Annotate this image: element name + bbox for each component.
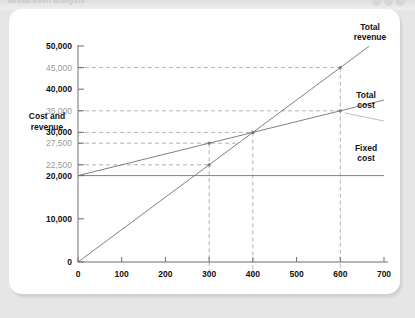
x-tick-label: 300 (202, 269, 216, 279)
x-tick-label: 0 (76, 269, 81, 279)
series-label-total-cost: Total (356, 90, 376, 100)
data-point-marker (251, 131, 254, 134)
chart-card: 0100200300400500600700010,00020,00030,00… (9, 9, 400, 294)
x-tick-label: 700 (377, 269, 391, 279)
series-label-total-cost: cost (357, 100, 375, 110)
series-line-total-revenue (78, 46, 369, 262)
data-point-marker (208, 142, 211, 145)
x-tick-label: 100 (115, 269, 129, 279)
y-tick-label-annotation: 22,500 (46, 160, 72, 170)
data-point-marker (208, 163, 211, 166)
y-axis-title: Cost and (29, 111, 65, 121)
series-label-fixed-cost: cost (357, 153, 375, 163)
window-dot-icon[interactable] (372, 0, 381, 6)
x-tick-label: 600 (333, 269, 347, 279)
leader-line-total-cost (345, 113, 384, 121)
series-label-fixed-cost: Fixed (355, 143, 377, 153)
series-line-total-cost (78, 100, 384, 176)
breakeven-chart: 0100200300400500600700010,00020,00030,00… (9, 9, 400, 294)
window-dot-icon[interactable] (396, 0, 405, 6)
data-point-marker (339, 109, 342, 112)
series-label-total-revenue: Total (360, 22, 380, 32)
y-tick-label-annotation: 45,000 (46, 63, 72, 73)
y-tick-label-major: 40,000 (46, 84, 72, 94)
y-tick-label-major: 10,000 (46, 214, 72, 224)
series-label-total-revenue: revenue (354, 32, 387, 42)
x-tick-label: 200 (158, 269, 172, 279)
y-tick-label-major: 0 (67, 257, 72, 267)
x-tick-label: 400 (246, 269, 260, 279)
y-tick-label-major: 50,000 (46, 41, 72, 51)
data-point-marker (339, 66, 342, 69)
x-tick-label: 500 (289, 269, 303, 279)
y-tick-label-annotation: 27,500 (46, 138, 72, 148)
y-axis-title: revenue (31, 122, 64, 132)
window-dot-icon[interactable] (384, 0, 393, 6)
page-root: Break-even analysis 01002003004005006007… (0, 0, 415, 318)
window-title: Break-even analysis (8, 0, 85, 5)
y-tick-label-major: 20,000 (46, 171, 72, 181)
